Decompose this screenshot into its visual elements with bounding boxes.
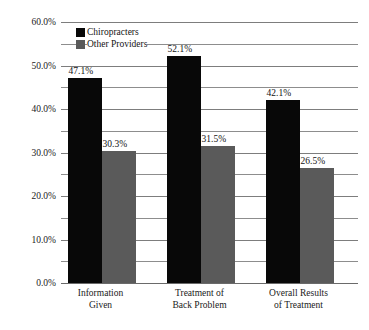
y-axis-tick-label: 30.0% [4, 148, 56, 158]
gridline [61, 87, 358, 88]
x-axis-category-label: Treatment of Back Problem [150, 288, 249, 311]
bar-value-label: 47.1% [69, 66, 94, 77]
axis-baseline [61, 283, 358, 284]
bar-1-1 [201, 146, 235, 283]
bar-0-0 [68, 78, 102, 283]
legend-item-1: Other Providers [76, 39, 147, 50]
bar-value-label: 31.5% [202, 134, 227, 145]
y-axis-tick-label: 0.0% [4, 278, 56, 288]
plot-area [61, 22, 358, 283]
bar-chart: 0.0%10.0%20.0%30.0%40.0%50.0%60.0% 47.1%… [0, 0, 369, 330]
gridline [61, 131, 358, 132]
x-axis-category-label: Overall Results of Treatment [249, 288, 348, 311]
legend-label: Other Providers [87, 39, 147, 50]
gridline [61, 66, 358, 67]
y-axis-tick-label: 60.0% [4, 17, 56, 27]
bar-value-label: 42.1% [267, 88, 292, 99]
legend-swatch-icon [76, 40, 85, 49]
x-axis-category-label: Information Given [51, 288, 150, 311]
bar-value-label: 52.1% [168, 44, 193, 55]
legend-item-0: Chiropracters [76, 27, 147, 38]
y-axis-tick-label: 10.0% [4, 235, 56, 245]
legend-label: Chiropracters [87, 27, 139, 38]
gridline [61, 22, 358, 23]
legend: ChiropractersOther Providers [76, 27, 147, 51]
gridline [61, 109, 358, 110]
bar-0-2 [266, 100, 300, 283]
legend-swatch-icon [76, 28, 85, 37]
y-axis-tick-label: 40.0% [4, 104, 56, 114]
bar-1-0 [102, 151, 136, 283]
bar-1-2 [300, 168, 334, 283]
y-axis-tick-label: 20.0% [4, 191, 56, 201]
bar-0-1 [167, 56, 201, 283]
bar-value-label: 26.5% [301, 156, 326, 167]
bar-value-label: 30.3% [103, 139, 128, 150]
y-axis-tick-label: 50.0% [4, 61, 56, 71]
